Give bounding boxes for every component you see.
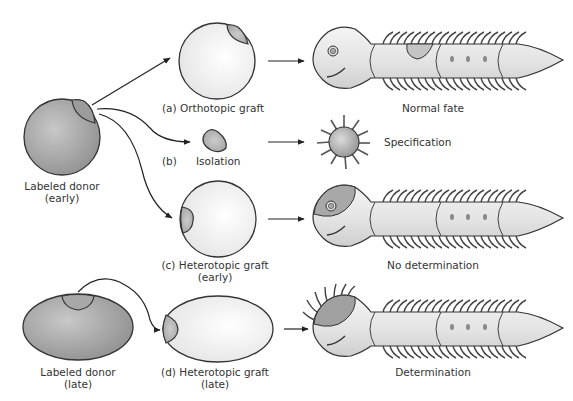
orthotopic-graft-embryo	[179, 23, 255, 99]
late-donor-label-line1: Labeled donor	[40, 366, 115, 378]
specified-tissue-star	[317, 115, 370, 169]
isolation-letter-label: (b)	[162, 155, 177, 167]
early-donor-label-line2: (early)	[24, 192, 99, 204]
heterotopic-late-label-line2: (late)	[161, 378, 269, 390]
worm-no-determination	[313, 185, 563, 248]
outcome-normal-fate: Normal fate	[402, 102, 464, 114]
outcome-determination: Determination	[395, 366, 471, 378]
heterotopic-early-label-line2: (early)	[161, 271, 268, 283]
heterotopic-graft-late-embryo	[163, 296, 273, 362]
heterotopic-late-label: (d) Heterotopic graft (late)	[161, 366, 269, 390]
outcome-no-determination: No determination	[387, 259, 479, 271]
heterotopic-early-label: (c) Heterotopic graft (early)	[161, 259, 268, 283]
late-donor-label: Labeled donor (late)	[40, 366, 115, 390]
late-donor-label-line2: (late)	[40, 378, 115, 390]
worm-determination	[303, 284, 563, 358]
isolation-label: Isolation	[196, 155, 240, 167]
heterotopic-early-label-line1: (c) Heterotopic graft	[161, 259, 268, 271]
early-donor-embryo	[24, 99, 100, 175]
worm-normal-fate	[313, 27, 563, 90]
arrow-to-orthotopic	[92, 58, 170, 105]
heterotopic-late-label-line1: (d) Heterotopic graft	[161, 366, 269, 378]
heterotopic-graft-early-embryo	[180, 181, 256, 257]
early-donor-label: Labeled donor (early)	[24, 180, 99, 204]
orthotopic-graft-label: (a) Orthotopic graft	[162, 102, 264, 114]
outcome-specification: Specification	[384, 136, 451, 148]
isolated-tissue	[203, 130, 226, 152]
late-donor-embryo	[23, 294, 133, 360]
early-donor-label-line1: Labeled donor	[24, 180, 99, 192]
